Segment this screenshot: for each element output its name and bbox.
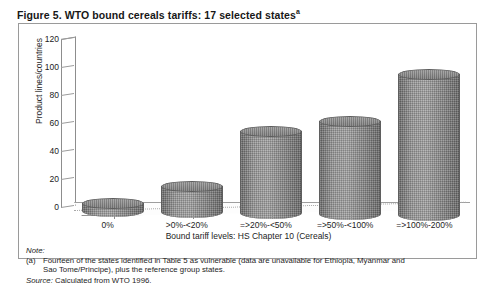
plot-area: Product lines/countries 020406080100120 … <box>19 24 478 214</box>
bar-body <box>240 131 302 219</box>
page-title: Figure 5. WTO bound cereals tariffs: 17 … <box>17 8 300 21</box>
chart-frame: Product lines/countries 020406080100120 … <box>18 23 477 259</box>
bar-top-ellipse <box>82 198 144 209</box>
bar-body <box>398 74 460 221</box>
bar-top-ellipse <box>161 181 223 192</box>
figure-notes: Note: (a) Fourteen of the states identif… <box>26 246 472 285</box>
bar-top-ellipse <box>319 116 381 127</box>
figure-caption-text: Figure 5. WTO bound cereals tariffs: 17 … <box>17 9 296 21</box>
bar-series <box>74 39 470 214</box>
x-axis-tick <box>430 214 431 219</box>
y-axis-tick-label: 20 <box>33 174 59 184</box>
bar[interactable] <box>319 116 381 220</box>
note-heading: Note: <box>26 246 472 256</box>
source-heading: Source: <box>26 276 53 285</box>
x-axis-tick <box>193 214 194 219</box>
y-axis-tick-label: 0 <box>33 202 59 212</box>
bar-top-ellipse <box>240 126 302 137</box>
y-axis-tick-label: 120 <box>33 34 59 44</box>
x-axis-tick-label: 0% <box>68 220 147 230</box>
note-text-line-1: Fourteen of the states identified in Tab… <box>43 256 472 266</box>
x-axis-title: Bound tariff levels: HS Chapter 10 (Cere… <box>19 231 478 241</box>
y-axis-tick-label: 100 <box>33 62 59 72</box>
source-row: Source: Calculated from WTO 1996. <box>26 276 472 285</box>
bar[interactable] <box>161 181 223 218</box>
note-text-line-2: Sao Tome/Principe), plus the reference g… <box>26 265 472 275</box>
source-text: Calculated from WTO 1996. <box>55 276 152 285</box>
x-axis-tick-label: =>50%-<100% <box>306 220 385 230</box>
figure-caption-superscript: a <box>296 8 300 15</box>
note-marker: (a) <box>26 256 39 266</box>
x-axis-tick <box>114 214 115 219</box>
bar[interactable] <box>398 69 460 221</box>
x-axis-tick-label: =>100%-200% <box>385 220 464 230</box>
x-axis-tick <box>351 214 352 219</box>
y-axis-tick-label: 80 <box>33 90 59 100</box>
x-axis-tick-label: =>20%-<50% <box>226 220 305 230</box>
bar[interactable] <box>240 126 302 219</box>
note-item: (a) Fourteen of the states identified in… <box>26 256 472 266</box>
x-axis-tick-label: >0%-<20% <box>147 220 226 230</box>
y-axis-tick-label: 60 <box>33 118 59 128</box>
x-axis-tick <box>272 214 273 219</box>
y-axis-tick-label: 40 <box>33 146 59 156</box>
bar-body <box>319 121 381 220</box>
